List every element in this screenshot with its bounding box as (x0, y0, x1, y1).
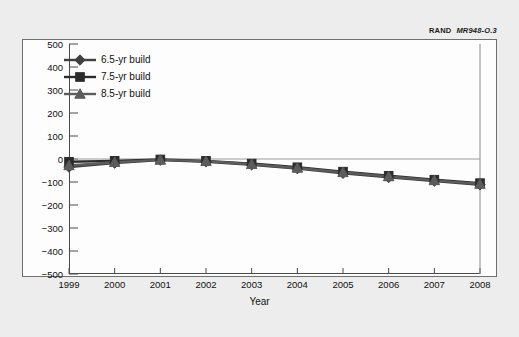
y-tick-label: −500 (42, 269, 63, 280)
legend-label: 7.5-yr build (101, 71, 150, 82)
y-tick-label: 100 (47, 131, 63, 142)
y-tick-label: −300 (42, 223, 63, 234)
x-tick-label: 2000 (104, 279, 125, 290)
legend-item: 6.5-yr build (63, 51, 150, 68)
x-tick-label: 2002 (195, 279, 216, 290)
legend-marker-square (63, 70, 97, 84)
y-tick-label: 300 (47, 85, 63, 96)
x-tick-label: 2005 (332, 279, 353, 290)
y-tick-label: 400 (47, 62, 63, 73)
y-tick-label: 500 (47, 39, 63, 50)
legend-marker-triangle (63, 87, 97, 101)
y-axis-label-container: Cost difference (FY98 $M) (2, 39, 18, 277)
credit-code: MR948-O.3 (456, 26, 497, 35)
legend-item: 7.5-yr build (63, 68, 150, 85)
x-tick-label: 2004 (287, 279, 308, 290)
y-tick-label: −100 (42, 177, 63, 188)
legend-label: 6.5-yr build (101, 54, 150, 65)
x-tick-label: 2001 (150, 279, 171, 290)
x-tick-label: 2003 (241, 279, 262, 290)
y-tick-label: 200 (47, 108, 63, 119)
x-tick-label: 1999 (58, 279, 79, 290)
x-tick-label: 2006 (378, 279, 399, 290)
figure: RANDMR948-O.3 Cost difference (FY98 $M) … (0, 0, 519, 337)
legend-marker-diamond (63, 53, 97, 67)
legend-label: 8.5-yr build (101, 88, 150, 99)
y-tick-label: −200 (42, 200, 63, 211)
source-credit: RANDMR948-O.3 (429, 26, 497, 35)
chart-legend: 6.5-yr build7.5-yr build8.5-yr build (63, 51, 150, 102)
x-tick-label: 2007 (424, 279, 445, 290)
x-axis-label: Year (22, 296, 497, 307)
y-tick-label: −400 (42, 246, 63, 257)
legend-item: 8.5-yr build (63, 85, 150, 102)
y-tick-label: 0 (58, 154, 63, 165)
plot-panel: 5004003002001000−100−200−300−400−500 199… (22, 39, 497, 277)
data-point-square (76, 72, 85, 81)
credit-org: RAND (429, 26, 451, 35)
series-line (69, 160, 480, 185)
x-tick-label: 2008 (469, 279, 490, 290)
data-point-diamond (75, 54, 85, 64)
